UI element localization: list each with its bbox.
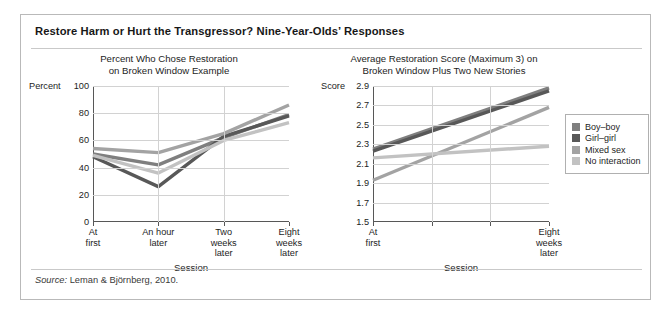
x-axis-tick-mark [224, 222, 225, 226]
y-axis-tick-label: 2.9 [356, 81, 369, 91]
x-axis-tick-line: later [521, 248, 577, 259]
y-axis-tick-label: 2.7 [356, 100, 369, 110]
x-axis-tick-line: At [65, 227, 121, 238]
gridline-vertical [490, 86, 491, 222]
chart-panel-left: Percent Who Chose Restoration on Broken … [29, 53, 309, 263]
gridline [373, 125, 549, 126]
legend-item[interactable]: No interaction [572, 156, 641, 166]
gridline-vertical [158, 86, 159, 222]
x-axis-tick-line: Eight [521, 227, 577, 238]
x-axis-tick-mark [549, 222, 550, 226]
chart-legend: Boy–boyGirl–girlMixed sexNo interaction [565, 114, 649, 174]
x-axis-tick-mark [432, 222, 433, 226]
x-axis-tick-label: Eightweekslater [521, 227, 577, 259]
y-axis-tick-label: 2.5 [356, 120, 369, 130]
y-axis-tick-label: 60 [79, 135, 89, 145]
x-axis-tick-line: An hour [130, 227, 186, 238]
title-divider [31, 48, 642, 49]
gridline [373, 183, 549, 184]
x-axis-tick-mark [289, 222, 290, 226]
source-prefix: Source: [35, 275, 67, 285]
figure-container: Restore Harm or Hurt the Transgressor? N… [20, 14, 651, 300]
y-axis-tick-label: 1.9 [356, 178, 369, 188]
x-axis-label-right: Session [373, 262, 549, 273]
gridline [93, 168, 289, 169]
series-line [93, 123, 289, 173]
legend-swatch-icon [572, 146, 580, 154]
plot-area-left: Session 020406080100AtfirstAn hourlaterT… [93, 86, 289, 222]
gridline-vertical [432, 86, 433, 222]
y-axis-tick-label: 100 [74, 81, 89, 91]
x-axis-tick-line: first [345, 238, 401, 249]
x-axis-label-left: Session [93, 262, 289, 273]
x-axis-tick-mark [158, 222, 159, 226]
x-axis-tick-line: weeks [196, 238, 252, 249]
gridline [373, 105, 549, 106]
gridline-vertical [224, 86, 225, 222]
y-axis-tick-label: 1.5 [356, 217, 369, 227]
y-axis-tick-label: 2.3 [356, 139, 369, 149]
y-axis-tick-label: 20 [79, 190, 89, 200]
y-axis-tick-label: 1.7 [356, 198, 369, 208]
chart-panel-right: Average Restoration Score (Maximum 3) on… [321, 53, 567, 263]
x-axis-tick-label: Eightweekslater [261, 227, 317, 259]
legend-item-label: No interaction [585, 156, 641, 166]
x-axis-tick-line: Eight [261, 227, 317, 238]
y-axis-label-left: Percent [29, 81, 61, 91]
chart-title-left: Percent Who Chose Restoration on Broken … [29, 53, 309, 76]
legend-item-label: Girl–girl [585, 133, 616, 143]
chart-title-right: Average Restoration Score (Maximum 3) on… [321, 53, 567, 76]
legend-item[interactable]: Boy–boy [572, 122, 641, 132]
x-axis-tick-line: first [65, 238, 121, 249]
y-axis-tick-label: 0 [84, 217, 89, 227]
x-axis-tick-line: Two [196, 227, 252, 238]
legend-swatch-icon [572, 134, 580, 142]
gridline [373, 203, 549, 204]
series-line [93, 105, 289, 153]
x-axis-tick-line: later [130, 238, 186, 249]
source-note: Source: Leman & Björnberg, 2010. [35, 275, 178, 285]
legend-item[interactable]: Mixed sex [572, 145, 641, 155]
gridline [373, 164, 549, 165]
source-divider [31, 269, 642, 270]
gridline [373, 86, 549, 87]
gridline [93, 86, 289, 87]
gridline [373, 144, 549, 145]
legend-item[interactable]: Girl–girl [572, 133, 641, 143]
x-axis-tick-line: weeks [521, 238, 577, 249]
series-lines-left [93, 86, 289, 222]
y-axis-tick-label: 40 [79, 163, 89, 173]
x-axis-tick-label: An hourlater [130, 227, 186, 248]
x-axis-tick-line: At [345, 227, 401, 238]
x-axis-tick-label: Atfirst [65, 227, 121, 248]
y-axis-tick-label: 2.1 [356, 159, 369, 169]
page-title: Restore Harm or Hurt the Transgressor? N… [35, 25, 404, 37]
gridline [93, 113, 289, 114]
source-text: Leman & Björnberg, 2010. [70, 275, 179, 285]
x-axis-tick-line: later [196, 248, 252, 259]
x-axis-tick-mark [373, 222, 374, 226]
series-line [373, 146, 549, 158]
legend-item-label: Mixed sex [585, 145, 626, 155]
legend-item-label: Boy–boy [585, 122, 620, 132]
x-axis-tick-line: weeks [261, 238, 317, 249]
x-axis-tick-mark [93, 222, 94, 226]
x-axis-tick-mark [490, 222, 491, 226]
gridline [93, 140, 289, 141]
y-axis-label-right: Score [321, 81, 345, 91]
x-axis-tick-label: Twoweekslater [196, 227, 252, 259]
plot-area-right: Session 1.51.71.92.12.32.52.72.9AtfirstE… [373, 86, 549, 222]
gridline [93, 195, 289, 196]
x-axis-tick-line: later [261, 248, 317, 259]
y-axis-tick-label: 80 [79, 108, 89, 118]
legend-swatch-icon [572, 157, 580, 165]
x-axis-tick-label: Atfirst [345, 227, 401, 248]
legend-swatch-icon [572, 123, 580, 131]
